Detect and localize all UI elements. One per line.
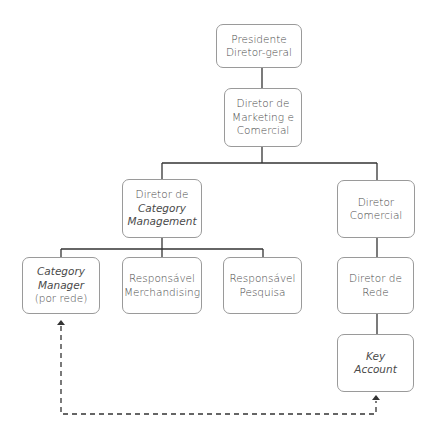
node-label: Key: [366, 350, 385, 364]
arrow-up-icon: [57, 320, 65, 325]
node-label: Marketing e: [232, 111, 294, 125]
node-resp-pesquisa: Responsável Pesquisa: [223, 257, 302, 314]
node-label: Category: [138, 202, 186, 216]
node-label: Responsável: [129, 272, 195, 286]
node-label: Management: [127, 215, 196, 229]
node-label: Diretor-geral: [226, 46, 292, 60]
org-chart: Presidente Diretor-geral Diretor de Mark…: [0, 0, 436, 437]
node-presidente: Presidente Diretor-geral: [216, 24, 302, 68]
dashed-link: [61, 326, 376, 414]
node-dir-rede: Diretor de Rede: [337, 257, 414, 314]
node-dir-comercial: Diretor Comercial: [337, 180, 415, 238]
node-label: Manager: [38, 279, 84, 293]
node-label: Diretor de: [237, 97, 290, 111]
node-label: Comercial: [350, 209, 403, 223]
node-label: Comercial: [237, 124, 290, 138]
node-resp-merch: Responsável Merchandising: [122, 257, 202, 314]
node-category-manager: Category Manager (por rede): [22, 257, 100, 314]
node-label: Diretor de: [349, 272, 402, 286]
node-label: Merchandising: [124, 286, 200, 300]
node-label: Presidente: [231, 33, 286, 47]
node-dir-marketing: Diretor de Marketing e Comercial: [224, 88, 302, 147]
node-label: Category: [37, 265, 85, 279]
node-label: Rede: [362, 286, 388, 300]
node-label: (por rede): [35, 292, 88, 306]
node-label: Pesquisa: [239, 286, 285, 300]
node-label: Account: [354, 363, 397, 377]
node-dir-category: Diretor de Category Management: [122, 179, 202, 238]
node-label: Responsável: [230, 272, 296, 286]
node-label: Diretor de: [136, 188, 189, 202]
arrow-up-icon: [372, 395, 380, 400]
node-label: Diretor: [358, 196, 394, 210]
node-key-account: Key Account: [337, 334, 414, 392]
